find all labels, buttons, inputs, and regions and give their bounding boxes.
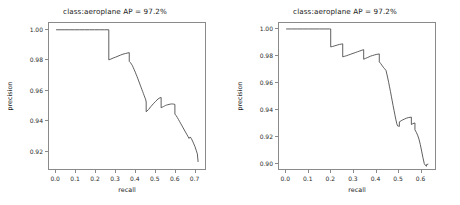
x-tick-mark [155, 170, 156, 173]
x-tick-mark [55, 170, 56, 173]
y-tick-label: 0.92 [17, 147, 43, 154]
x-tick-label: 0.0 [275, 175, 295, 182]
x-tick-label: 0.6 [165, 175, 185, 182]
x-tick-mark [195, 170, 196, 173]
panel-right-plot-area [278, 22, 436, 170]
x-tick-label: 0.5 [145, 175, 165, 182]
precision-recall-curve-left [56, 30, 198, 162]
y-tick-label: 1.00 [247, 25, 273, 32]
x-tick-label: 0.4 [125, 175, 145, 182]
x-tick-label: 0.5 [388, 175, 408, 182]
x-tick-mark [175, 170, 176, 173]
panel-right-curve-svg [279, 23, 435, 169]
x-tick-label: 0.0 [45, 175, 65, 182]
x-tick-mark [308, 170, 309, 173]
x-tick-label: 0.3 [105, 175, 125, 182]
x-tick-mark [115, 170, 116, 173]
y-tick-label: 0.98 [17, 56, 43, 63]
y-tick-label: 0.98 [247, 51, 273, 58]
panel-right-title: class:aeroplane AP = 97.2% [230, 7, 460, 16]
y-tick-label: 0.94 [17, 117, 43, 124]
x-tick-mark [398, 170, 399, 173]
panel-left-xaxis-label: recall [48, 186, 206, 194]
x-tick-label: 0.4 [366, 175, 386, 182]
panel-right-yaxis-label: precision [236, 82, 244, 111]
precision-recall-figure: class:aeroplane AP = 97.2% precision rec… [0, 0, 460, 205]
x-tick-mark [285, 170, 286, 173]
x-tick-mark [330, 170, 331, 173]
y-tick-label: 0.90 [247, 159, 273, 166]
x-tick-mark [135, 170, 136, 173]
x-tick-label: 0.6 [411, 175, 431, 182]
x-tick-mark [421, 170, 422, 173]
panel-left-plot-area [48, 22, 206, 170]
panel-left-yaxis-label: precision [6, 82, 14, 111]
x-tick-label: 0.1 [298, 175, 318, 182]
y-tick-label: 0.96 [247, 78, 273, 85]
x-tick-mark [353, 170, 354, 173]
x-tick-label: 0.7 [185, 175, 205, 182]
panel-left-title: class:aeroplane AP = 97.2% [0, 7, 230, 16]
panel-left: class:aeroplane AP = 97.2% precision rec… [0, 0, 230, 205]
x-tick-mark [376, 170, 377, 173]
x-tick-label: 0.2 [320, 175, 340, 182]
x-tick-label: 0.3 [343, 175, 363, 182]
precision-recall-curve-right [286, 29, 428, 166]
panel-right: class:aeroplane AP = 97.2% precision rec… [230, 0, 460, 205]
y-tick-label: 0.96 [17, 86, 43, 93]
y-tick-label: 1.00 [17, 25, 43, 32]
x-tick-mark [75, 170, 76, 173]
panel-left-curve-svg [49, 23, 205, 169]
y-tick-label: 0.94 [247, 105, 273, 112]
x-tick-mark [95, 170, 96, 173]
y-tick-label: 0.92 [247, 132, 273, 139]
x-tick-label: 0.1 [65, 175, 85, 182]
x-tick-label: 0.2 [85, 175, 105, 182]
panel-right-xaxis-label: recall [278, 186, 436, 194]
